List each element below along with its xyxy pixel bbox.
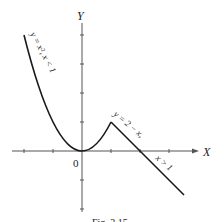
line-label-bottom: x > 1	[153, 152, 175, 173]
origin-label: 0	[73, 157, 79, 169]
x-axis-arrow-icon	[192, 149, 199, 154]
line-label-top: y = 2 − x,	[111, 108, 146, 139]
piecewise-function-graph: Y X 0 y = x², x < 1 y = 2 − x, x > 1 Fig…	[0, 0, 224, 222]
line-segment-curve	[111, 122, 184, 195]
x-axis-label: X	[202, 145, 211, 159]
parabola-curve	[24, 35, 111, 151]
y-axis-label: Y	[77, 9, 85, 23]
x-axis	[12, 149, 199, 154]
figure-caption: Fig. 3.15	[92, 217, 128, 222]
y-axis	[80, 23, 84, 212]
